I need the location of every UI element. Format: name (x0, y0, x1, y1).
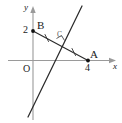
coordinate-figure: y x O B 2 A 4 C (0, 0, 122, 123)
y-tick-label-2: 2 (23, 25, 28, 35)
point-b-label: B (37, 20, 44, 31)
y-axis-label: y (24, 3, 28, 12)
point-c-label: C (57, 31, 62, 39)
y-axis-arrowhead (30, 6, 35, 13)
figure-canvas (0, 0, 122, 123)
x-axis-label: x (113, 62, 117, 71)
origin-label: O (23, 64, 30, 74)
point-b-dot (31, 29, 35, 33)
x-tick-label-4: 4 (85, 63, 90, 73)
point-a-label: A (90, 49, 98, 60)
